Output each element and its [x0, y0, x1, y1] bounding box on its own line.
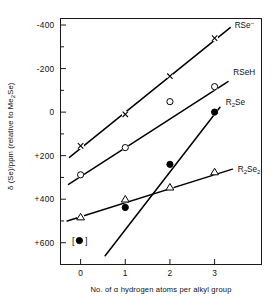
- y-tick-label: +200: [35, 151, 55, 161]
- bracketed-marker: [76, 237, 82, 243]
- series-label-1: RSeH: [233, 68, 255, 77]
- chart-svg: -400-2000+200+400+600 0123 RSe−RSeHR2SeR…: [0, 0, 278, 305]
- bracket-close: ]: [85, 236, 88, 246]
- x-tick-label: 1: [123, 268, 128, 278]
- y-axis-tick-labels: -400-2000+200+400+600: [35, 20, 55, 248]
- data-point-1-1: [122, 144, 128, 150]
- x-tick-label: 0: [78, 268, 83, 278]
- y-tick-label: -400: [37, 20, 55, 30]
- data-point-1-0: [78, 172, 84, 178]
- series-label-2: R2Se: [226, 98, 246, 108]
- y-tick-label: 0: [50, 107, 55, 117]
- x-axis-title-text: No. of α hydrogen atoms per alkyl group: [90, 285, 231, 294]
- x-tick-label: 3: [212, 268, 217, 278]
- y-axis-title: δ (Se)/ppm (relative to Me2Se): [6, 82, 16, 190]
- data-point-2-1: [167, 161, 173, 167]
- y-tick-label: +600: [35, 238, 55, 248]
- y-tick-label: +400: [35, 194, 55, 204]
- plot-frame: [61, 19, 262, 265]
- x-tick-label: 2: [167, 268, 172, 278]
- data-point-1-2: [167, 99, 173, 105]
- x-axis-title: No. of α hydrogen atoms per alkyl group: [90, 285, 231, 294]
- data-point-1-3: [212, 84, 218, 90]
- y-tick-label: -200: [37, 64, 55, 74]
- chart-figure: -400-2000+200+400+600 0123 RSe−RSeHR2SeR…: [0, 0, 278, 305]
- data-point-2-2: [212, 109, 218, 115]
- svg-text:δ (Se)/ppm (relative to Me2Se): δ (Se)/ppm (relative to Me2Se): [6, 82, 16, 190]
- data-point-2-0: [122, 204, 128, 210]
- x-axis-tick-labels: 0123: [78, 268, 217, 278]
